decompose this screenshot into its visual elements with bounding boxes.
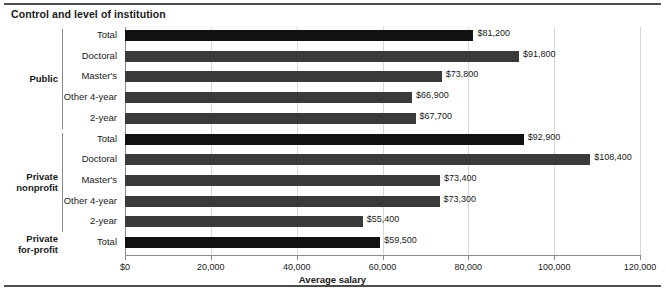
bar-value-label: $59,500 bbox=[384, 235, 417, 245]
bar-value-label: $73,800 bbox=[446, 69, 479, 79]
bar-value-label: $73,300 bbox=[444, 194, 477, 204]
bar-value-label: $67,700 bbox=[420, 111, 453, 121]
chart-title: Control and level of institution bbox=[11, 8, 166, 20]
category-label: Total bbox=[0, 236, 117, 247]
bar-value-label: $73,400 bbox=[444, 173, 477, 183]
x-tick-label-60000: 60,000 bbox=[369, 262, 397, 272]
bar-row: $59,500 bbox=[125, 234, 640, 255]
category-label: Total bbox=[0, 29, 117, 40]
top-rule bbox=[4, 3, 661, 5]
bar-value-label: $108,400 bbox=[594, 152, 632, 162]
bar bbox=[125, 154, 590, 165]
x-tick-40000 bbox=[297, 255, 298, 260]
x-tick-label-20000: 20,000 bbox=[197, 262, 225, 272]
category-label: Master's bbox=[0, 70, 117, 81]
x-tick-label-40000: 40,000 bbox=[283, 262, 311, 272]
bar-row: $66,900 bbox=[125, 89, 640, 110]
bar-value-label: $81,200 bbox=[477, 28, 510, 38]
x-tick-0 bbox=[125, 255, 126, 260]
bar-row: $108,400 bbox=[125, 151, 640, 172]
bar bbox=[125, 30, 473, 41]
bar-row: $55,400 bbox=[125, 213, 640, 234]
x-tick-80000 bbox=[468, 255, 469, 260]
bar-value-label: $92,900 bbox=[528, 132, 561, 142]
bar-row: $92,900 bbox=[125, 131, 640, 152]
bar-row: $73,800 bbox=[125, 68, 640, 89]
x-tick-20000 bbox=[211, 255, 212, 260]
plot-area: $81,200$91,800$73,800$66,900$67,700$92,9… bbox=[125, 27, 640, 255]
bar bbox=[125, 51, 519, 62]
x-tick-100000 bbox=[554, 255, 555, 260]
bar bbox=[125, 92, 412, 103]
bar-row: $91,800 bbox=[125, 48, 640, 69]
category-label: Other 4-year bbox=[0, 195, 117, 206]
bar-row: $81,200 bbox=[125, 27, 640, 48]
bar-row: $67,700 bbox=[125, 110, 640, 131]
bottom-rule bbox=[4, 285, 661, 287]
bar bbox=[125, 134, 524, 145]
bar bbox=[125, 237, 380, 248]
category-label: Total bbox=[0, 133, 117, 144]
x-tick-label-0: $0 bbox=[120, 262, 130, 272]
bar-row: $73,300 bbox=[125, 193, 640, 214]
x-axis-title: Average salary bbox=[0, 274, 665, 285]
bar bbox=[125, 216, 363, 227]
bar bbox=[125, 113, 416, 124]
bar-value-label: $66,900 bbox=[416, 90, 449, 100]
bar-row: $73,400 bbox=[125, 172, 640, 193]
x-tick-60000 bbox=[383, 255, 384, 260]
bar bbox=[125, 175, 440, 186]
category-label: Other 4-year bbox=[0, 91, 117, 102]
bar bbox=[125, 71, 442, 82]
bar bbox=[125, 196, 440, 207]
x-tick-120000 bbox=[640, 255, 641, 260]
chart-figure: Control and level of institution PublicP… bbox=[0, 0, 665, 294]
category-label: Doctoral bbox=[0, 153, 117, 164]
x-tick-label-80000: 80,000 bbox=[455, 262, 483, 272]
bar-value-label: $55,400 bbox=[367, 214, 400, 224]
bar-value-label: $91,800 bbox=[523, 49, 556, 59]
x-tick-label-120000: 120,000 bbox=[624, 262, 657, 272]
category-label: 2-year bbox=[0, 215, 117, 226]
x-tick-label-100000: 100,000 bbox=[538, 262, 571, 272]
category-label: Doctoral bbox=[0, 50, 117, 61]
gridline-120000 bbox=[640, 27, 641, 255]
category-label: 2-year bbox=[0, 112, 117, 123]
category-label: Master's bbox=[0, 174, 117, 185]
